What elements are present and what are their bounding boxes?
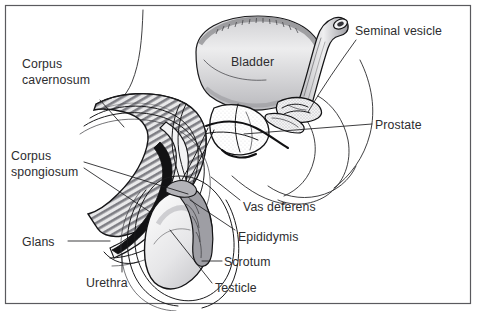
label-testicle: Testicle xyxy=(215,281,257,295)
label-urethra: Urethra xyxy=(86,276,128,290)
label-glans: Glans xyxy=(22,235,55,249)
male-reproductive-system-diagram: Corpus cavernosum Corpus spongiosum Glan… xyxy=(0,0,477,311)
label-bladder: Bladder xyxy=(231,55,274,69)
label-epididymis: Epididymis xyxy=(238,230,298,244)
anatomical-figure: Corpus cavernosum Corpus spongiosum Glan… xyxy=(0,0,477,311)
leader-vas-deferens xyxy=(211,177,240,200)
label-seminal-vesicle: Seminal vesicle xyxy=(355,24,442,38)
label-corpus-cavernosum: Corpus cavernosum xyxy=(22,57,90,87)
label-vas-deferens: Vas deferens xyxy=(243,200,316,214)
label-prostate: Prostate xyxy=(375,118,422,132)
label-corpus-spongiosum: Corpus spongiosum xyxy=(11,149,78,179)
label-scrotum: Scrotum xyxy=(224,255,270,269)
